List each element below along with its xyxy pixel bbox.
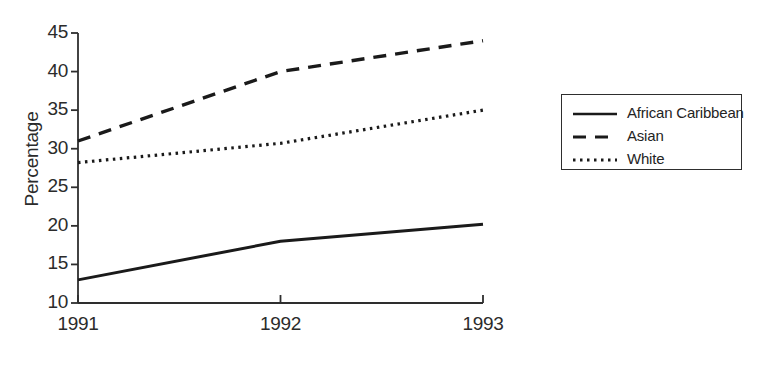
x-axis-tick-label: 1992 [236, 313, 326, 335]
y-axis-tick-label: 45 [16, 21, 68, 43]
y-axis-tick-label: 30 [16, 137, 68, 159]
line-chart-figure: Percentage 4540353025201510 199119921993… [0, 0, 762, 366]
series-line-white [78, 110, 483, 162]
legend-swatch-solid [572, 106, 618, 118]
y-axis-tick-label: 35 [16, 98, 68, 120]
legend-item-asian[interactable]: Asian [572, 124, 664, 146]
data-series-group [78, 41, 483, 280]
series-line-african-caribbean [78, 224, 483, 280]
x-axis-ticks [78, 295, 483, 303]
y-axis-tick-label: 25 [16, 175, 68, 197]
series-line-asian [78, 41, 483, 141]
legend-label: Asian [627, 127, 664, 144]
chart-legend: African CaribbeanAsianWhite [561, 94, 742, 170]
y-axis-ticks [71, 33, 78, 303]
y-axis-tick-label: 10 [16, 291, 68, 313]
plot-area [0, 0, 762, 366]
legend-item-white[interactable]: White [572, 147, 664, 169]
legend-label: White [627, 150, 664, 167]
x-axis-tick-label: 1993 [438, 313, 528, 335]
x-axis-tick-label: 1991 [33, 313, 123, 335]
y-axis-tick-label: 40 [16, 60, 68, 82]
legend-item-african-caribbean[interactable]: African Caribbean [572, 101, 744, 123]
legend-swatch-dashed [572, 129, 618, 141]
legend-swatch-dotted [572, 152, 618, 164]
legend-label: African Caribbean [627, 104, 744, 121]
y-axis-tick-label: 15 [16, 252, 68, 274]
y-axis-tick-label: 20 [16, 214, 68, 236]
